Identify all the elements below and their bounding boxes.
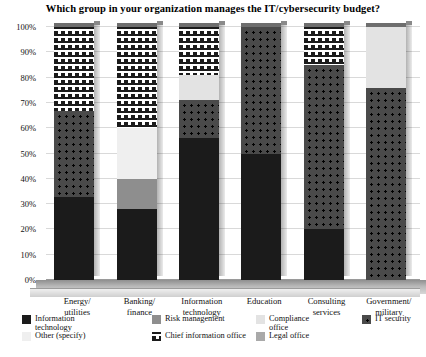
bar-segment: [179, 27, 219, 75]
bar-stack: [366, 27, 406, 280]
bar-segment: [54, 197, 94, 280]
legend-label: IT security: [375, 314, 411, 323]
swatch-other-specify: [22, 332, 31, 341]
bar-stack: [241, 27, 281, 280]
chart-title: Which group in your organization manages…: [0, 3, 426, 14]
bar-side-face: [157, 23, 163, 276]
y-axis-tick-80: 80%: [20, 73, 36, 83]
bar-top-side-face: [157, 21, 163, 25]
bar-column[interactable]: [304, 27, 350, 280]
bar-segment: [54, 27, 94, 110]
bar-segment: [241, 154, 281, 281]
bar-segment: [304, 27, 344, 65]
y-axis-tick-20: 20%: [20, 224, 36, 234]
bar-segment: [117, 27, 157, 128]
legend-item[interactable]: Risk management: [152, 314, 225, 324]
chart-legend: Information technologyRisk managementCom…: [22, 314, 422, 354]
bar-column[interactable]: [241, 27, 287, 280]
y-axis-tick-10: 10%: [20, 250, 36, 260]
bar-side-face: [406, 23, 412, 276]
y-axis-tick-100: 100%: [16, 22, 36, 32]
legend-label: Risk management: [165, 314, 225, 323]
bar-segment: [366, 27, 406, 88]
y-axis-tick-0: 0%: [25, 275, 36, 285]
bar-segment: [179, 100, 219, 138]
legend-label: Compliance office: [269, 314, 309, 333]
y-axis-tick-70: 70%: [20, 98, 36, 108]
swatch-risk-management: [152, 315, 161, 324]
bar-stack: [117, 27, 157, 280]
bar-side-face: [94, 23, 100, 276]
bar-column[interactable]: [117, 27, 163, 280]
bar-segment: [117, 209, 157, 280]
bar-top-side-face: [344, 21, 350, 25]
legend-item[interactable]: Legal office: [256, 331, 309, 341]
bar-segment: [304, 65, 344, 229]
y-axis-tick-90: 90%: [20, 47, 36, 57]
y-axis-tick-50: 50%: [20, 149, 36, 159]
chart-container: Which group in your organization manages…: [0, 0, 426, 357]
bar-column[interactable]: [54, 27, 100, 280]
bar-segment: [117, 128, 157, 179]
bar-top-face: [179, 23, 219, 27]
bar-segment: [179, 138, 219, 280]
y-axis-tick-40: 40%: [20, 174, 36, 184]
bar-top-face: [304, 23, 344, 27]
swatch-it-security: [362, 315, 371, 324]
bar-top-side-face: [219, 21, 225, 25]
legend-label: Chief information office: [165, 331, 246, 340]
bar-top-side-face: [281, 21, 287, 25]
legend-item[interactable]: Information technology: [22, 314, 75, 333]
bar-side-face: [281, 23, 287, 276]
bar-series-group: [46, 27, 420, 280]
bar-top-side-face: [406, 21, 412, 25]
bar-column[interactable]: [366, 27, 412, 280]
legend-item[interactable]: Other (specify): [22, 331, 85, 341]
y-axis-tick-60: 60%: [20, 123, 36, 133]
bar-top-face: [117, 23, 157, 27]
bar-side-face: [344, 23, 350, 276]
swatch-compliance-office: [256, 315, 265, 324]
plot-area: [46, 27, 420, 280]
bar-segment: [304, 229, 344, 280]
swatch-chief-information-office: [152, 332, 161, 341]
y-axis-labels: 0%10%20%30%40%50%60%70%80%90%100%: [0, 27, 42, 280]
bar-top-side-face: [94, 21, 100, 25]
y-axis-tick-30: 30%: [20, 199, 36, 209]
bar-column[interactable]: [179, 27, 225, 280]
legend-label: Legal office: [269, 331, 309, 340]
bar-segment: [117, 179, 157, 209]
legend-label: Information technology: [35, 314, 75, 333]
bar-top-face: [54, 23, 94, 27]
legend-label: Other (specify): [35, 331, 85, 340]
legend-item[interactable]: IT security: [362, 314, 411, 324]
bar-side-face: [219, 23, 225, 276]
bar-stack: [304, 27, 344, 280]
bar-segment: [241, 27, 281, 154]
bar-stack: [179, 27, 219, 280]
bar-segment: [54, 111, 94, 197]
bar-segment: [366, 88, 406, 280]
bar-top-face: [241, 23, 281, 27]
bar-top-face: [366, 23, 406, 27]
legend-item[interactable]: Compliance office: [256, 314, 309, 333]
bar-segment: [179, 75, 219, 100]
x-axis-label: Education: [228, 296, 300, 307]
swatch-information-technology: [22, 315, 31, 324]
swatch-legal-office: [256, 332, 265, 341]
legend-item[interactable]: Chief information office: [152, 331, 246, 341]
bar-stack: [54, 27, 94, 280]
